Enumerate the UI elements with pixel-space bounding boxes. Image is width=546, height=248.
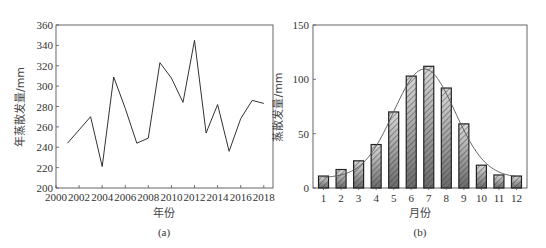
bar-month-9	[459, 124, 469, 188]
x-tick-label: 2014	[207, 191, 230, 203]
y-axis-title: 蒸散发量/mm	[271, 72, 285, 141]
y-tick-label: 240	[37, 141, 54, 153]
x-tick-label: 8	[444, 192, 450, 204]
x-tick-label: 2002	[68, 191, 90, 203]
y-tick-label: 0	[304, 182, 310, 194]
plot-frame	[313, 25, 527, 188]
bar-month-3	[354, 161, 364, 188]
bar-month-12	[511, 176, 521, 188]
x-tick-label: 11	[494, 192, 505, 204]
x-tick-label: 9	[461, 192, 467, 204]
fitted-curve	[324, 69, 517, 177]
plot-frame	[56, 25, 273, 188]
y-tick-label: 150	[293, 19, 310, 31]
bar-month-5	[389, 112, 399, 188]
bar-month-8	[441, 88, 451, 188]
x-tick-label: 4	[373, 192, 379, 204]
annual-evapotranspiration-line-chart: 200220240260280300320340360 200020022004…	[13, 19, 275, 239]
y-tick-label: 220	[37, 162, 54, 174]
x-tick-label: 3	[356, 192, 362, 204]
x-tick-label: 2000	[45, 191, 68, 203]
figure-caption: (b)	[414, 226, 427, 239]
y-tick-label: 260	[37, 121, 54, 133]
x-axis-ticks: 123456789101112	[321, 188, 522, 204]
x-axis-title: 月份	[409, 207, 431, 220]
y-tick-label: 100	[293, 73, 310, 85]
bar-month-11	[494, 175, 504, 188]
bar-month-6	[406, 76, 416, 188]
bar-month-2	[336, 170, 346, 188]
figure: 200220240260280300320340360 200020022004…	[0, 0, 546, 248]
x-tick-label: 1	[321, 192, 327, 204]
x-tick-label: 2006	[114, 191, 137, 203]
y-tick-label: 300	[37, 80, 54, 92]
bar-month-1	[319, 176, 329, 188]
y-tick-label: 360	[37, 19, 54, 31]
x-tick-label: 2004	[91, 191, 114, 203]
y-axis-ticks: 050100150	[293, 19, 317, 194]
y-tick-label: 340	[37, 39, 54, 51]
data-line	[68, 40, 264, 166]
x-tick-label: 2018	[253, 191, 276, 203]
bar-month-7	[424, 66, 434, 188]
monthly-evapotranspiration-bar-chart: 050100150 123456789101112 月份 蒸散发量/mm (b)	[271, 19, 527, 239]
y-tick-label: 50	[298, 128, 310, 140]
bar-month-10	[476, 165, 486, 188]
x-tick-label: 7	[426, 192, 432, 204]
x-tick-label: 12	[511, 192, 522, 204]
y-axis-title: 年蒸散发量/mm	[13, 67, 27, 147]
x-tick-label: 2012	[184, 191, 206, 203]
x-tick-label: 2016	[230, 191, 253, 203]
x-tick-label: 2008	[137, 191, 160, 203]
x-tick-label: 10	[476, 192, 488, 204]
x-tick-label: 5	[391, 192, 397, 204]
bars	[319, 66, 522, 188]
y-tick-label: 320	[37, 60, 54, 72]
figure-caption: (a)	[158, 226, 171, 239]
x-tick-label: 2010	[160, 191, 183, 203]
x-tick-label: 6	[408, 192, 414, 204]
x-tick-label: 2	[338, 192, 344, 204]
y-tick-label: 280	[37, 101, 54, 113]
x-axis-title: 年份	[153, 206, 175, 220]
